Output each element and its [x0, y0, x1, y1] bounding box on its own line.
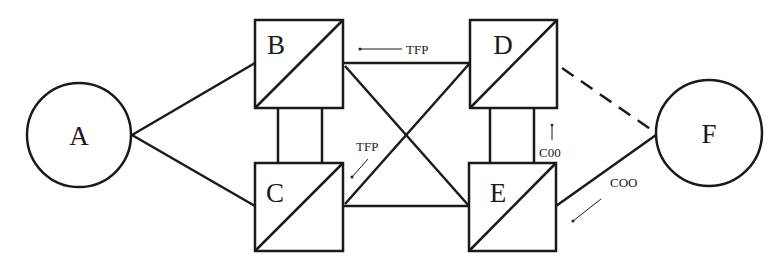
annotation-c00-label: C00 [539, 145, 561, 160]
edge-b-c [278, 108, 322, 163]
edge-d-e [490, 108, 534, 163]
annotation-c00: C00 [539, 124, 561, 160]
edge-a-b [132, 63, 255, 135]
arrow-down-left-icon [352, 159, 368, 177]
annotation-coo-label: COO [610, 175, 637, 190]
node-c-label: C [266, 178, 284, 208]
edge-c-d [345, 63, 470, 204]
node-d-label: D [493, 30, 513, 60]
node-e: E [469, 163, 556, 251]
node-f-label: F [701, 119, 716, 149]
arrow-down-left-icon [573, 199, 601, 221]
node-b-label: B [267, 30, 285, 60]
network-diagram: A B C D E F TFP TFP [0, 0, 782, 268]
node-e-label: E [490, 178, 507, 208]
edge-b-e [345, 66, 469, 206]
node-b: B [255, 20, 343, 108]
annotation-tfp-middle-label: TFP [356, 139, 378, 154]
edge-a-c [132, 135, 255, 206]
edge-e-f [556, 135, 656, 206]
edge-d-f [562, 68, 656, 133]
annotation-tfp-top: TFP [359, 42, 429, 57]
node-a-label: A [69, 121, 89, 151]
node-c: C [255, 163, 343, 251]
annotation-tfp-top-label: TFP [406, 42, 428, 57]
node-f: F [656, 80, 762, 186]
node-a: A [27, 83, 131, 187]
node-d: D [470, 20, 557, 108]
annotation-coo: COO [572, 175, 638, 223]
